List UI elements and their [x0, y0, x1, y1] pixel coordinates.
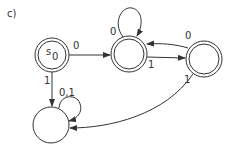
state-diagram: c) s 0 0 1 0 1 0 — [0, 0, 231, 151]
state-q3 — [33, 107, 69, 143]
transition-s0-q3: 1 — [44, 72, 52, 106]
transition-q3-loop: 0,1 — [59, 87, 81, 121]
svg-text:1: 1 — [44, 75, 50, 86]
state-q2 — [186, 41, 222, 77]
transition-s0-q1: 0 — [69, 40, 110, 55]
svg-text:1: 1 — [184, 74, 190, 85]
transition-q2-q3: 1 — [70, 74, 193, 128]
transition-q1-loop: 0 — [110, 8, 141, 37]
svg-text:1: 1 — [148, 59, 154, 70]
state-q1 — [111, 36, 147, 72]
svg-text:s: s — [46, 46, 51, 57]
transition-q2-q1: 0 — [147, 30, 191, 48]
svg-text:0: 0 — [110, 26, 116, 37]
state-s0: s 0 — [35, 38, 69, 72]
svg-text:0,1: 0,1 — [59, 87, 75, 98]
svg-text:0: 0 — [73, 40, 79, 51]
figure-label: c) — [7, 8, 16, 19]
svg-text:0: 0 — [52, 51, 58, 62]
svg-text:0: 0 — [185, 30, 191, 41]
transition-q1-q2: 1 — [147, 57, 185, 70]
